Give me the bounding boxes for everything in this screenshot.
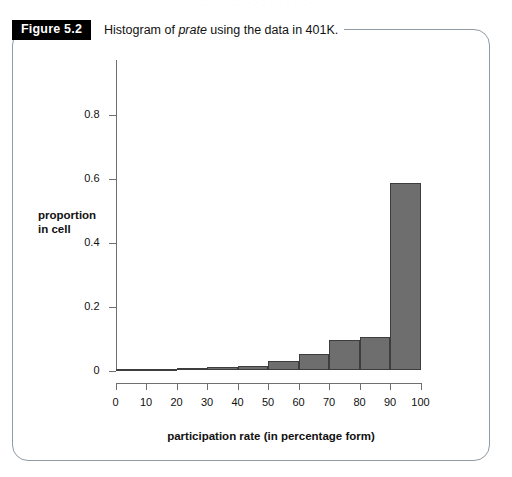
x-axis-tick — [390, 383, 391, 390]
figure-caption: Figure 5.2 Histogram of prate using the … — [12, 20, 344, 40]
y-axis-tick — [109, 307, 116, 308]
y-axis-label-line1: proportion — [38, 208, 116, 222]
x-axis-tick — [329, 383, 330, 390]
x-axis-tick-label: 80 — [345, 396, 375, 408]
x-axis-tick-label: 10 — [131, 396, 161, 408]
x-axis-tick — [299, 383, 300, 390]
histogram-bar — [390, 183, 421, 370]
figure-number-badge: Figure 5.2 — [12, 20, 91, 40]
histogram-bar — [268, 361, 299, 371]
histogram-bar — [238, 366, 269, 371]
histogram-bar — [177, 368, 208, 371]
x-axis-tick — [268, 383, 269, 390]
histogram-bar — [207, 367, 238, 371]
y-axis-label-line2: in cell — [38, 222, 116, 236]
figure-caption-text: Histogram of prate using the data in 401… — [104, 23, 338, 37]
x-axis-tick — [360, 383, 361, 390]
histogram-bar — [360, 337, 391, 371]
histogram-plot: proportion in cell participation rate (i… — [0, 0, 512, 477]
x-axis-tick-label: 40 — [223, 396, 253, 408]
y-axis-tick — [109, 371, 116, 372]
caption-prefix: Histogram of — [104, 23, 178, 37]
y-axis-tick-label: 0.2 — [66, 300, 100, 312]
y-axis-label: proportion in cell — [38, 208, 116, 236]
y-axis-spine — [116, 60, 117, 371]
x-axis-tick-label: 70 — [314, 396, 344, 408]
histogram-bar — [329, 340, 360, 370]
x-axis-tick-label: 60 — [284, 396, 314, 408]
x-axis-tick — [177, 383, 178, 390]
histogram-bar — [146, 369, 177, 371]
x-axis-label: participation rate (in percentage form) — [116, 430, 426, 442]
x-axis-tick — [116, 383, 117, 390]
x-axis-tick — [146, 383, 147, 390]
x-axis-tick-label: 30 — [192, 396, 222, 408]
y-axis-tick — [109, 179, 116, 180]
x-axis-tick — [207, 383, 208, 390]
caption-italic-variable: prate — [178, 23, 207, 37]
x-axis-tick-label: 50 — [253, 396, 283, 408]
histogram-bar — [299, 354, 330, 370]
x-axis-tick-label: 100 — [406, 396, 436, 408]
histogram-bar — [116, 369, 147, 371]
y-axis-tick — [109, 115, 116, 116]
y-axis-tick-label: 0.8 — [66, 108, 100, 120]
y-axis-tick — [109, 243, 116, 244]
y-axis-tick-label: 0.6 — [66, 172, 100, 184]
x-axis-tick-label: 20 — [162, 396, 192, 408]
y-axis-tick-label: 0 — [66, 364, 100, 376]
caption-suffix: using the data in 401K. — [207, 23, 338, 37]
x-axis-tick — [421, 383, 422, 390]
x-axis-tick-label: 90 — [375, 396, 405, 408]
y-axis-tick-label: 0.4 — [66, 236, 100, 248]
x-axis-tick — [238, 383, 239, 390]
x-axis-tick-label: 0 — [101, 396, 131, 408]
